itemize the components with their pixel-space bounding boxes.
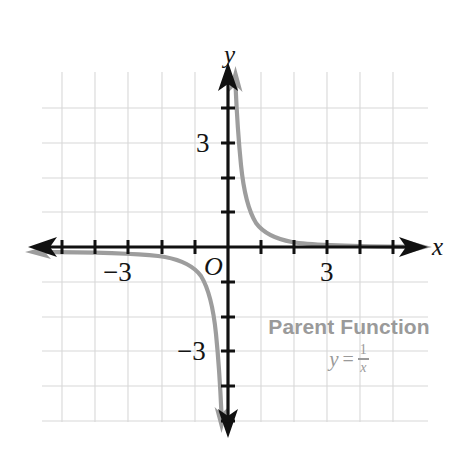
y-axis-label: y bbox=[224, 42, 235, 67]
callout-title: Parent Function bbox=[244, 316, 454, 338]
fraction-denominator: x bbox=[358, 360, 368, 375]
curve-branch-positive bbox=[236, 85, 414, 247]
equation-left-side: y bbox=[329, 349, 338, 370]
x-tick-label-positive-3: 3 bbox=[320, 259, 334, 286]
equation-fraction: 1 x bbox=[358, 343, 369, 375]
parent-function-graph-figure: −3 3 3 −3 O x y Parent Function y = 1 x bbox=[0, 0, 472, 460]
y-tick-label-negative-3: −3 bbox=[177, 338, 206, 365]
parent-function-callout: Parent Function y = 1 x bbox=[244, 316, 454, 375]
origin-label: O bbox=[204, 254, 223, 280]
equation-equals-sign: = bbox=[343, 349, 354, 369]
callout-equation: y = 1 x bbox=[244, 343, 454, 375]
y-tick-label-positive-3: 3 bbox=[196, 130, 210, 157]
coordinate-plane-svg bbox=[0, 0, 472, 460]
fraction-numerator: 1 bbox=[358, 343, 369, 358]
x-tick-label-negative-3: −3 bbox=[103, 259, 132, 286]
x-axis-label: x bbox=[432, 234, 443, 259]
